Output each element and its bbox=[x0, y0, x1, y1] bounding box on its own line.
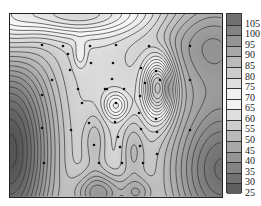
colorbar-tick-label: 75 bbox=[245, 82, 255, 92]
colorbar-cell bbox=[227, 78, 241, 89]
colorbar-cell bbox=[227, 88, 241, 99]
colorbar-cell bbox=[227, 173, 241, 184]
colorbar-cell bbox=[227, 67, 241, 78]
colorbar-cell bbox=[227, 109, 241, 120]
contour-canvas bbox=[10, 14, 222, 197]
colorbar-tick-label: 90 bbox=[245, 50, 255, 60]
colorbar-cell bbox=[227, 56, 241, 67]
colorbar-cell bbox=[227, 46, 241, 57]
colorbar-tick-label: 65 bbox=[245, 103, 255, 113]
colorbar-tick-label: 35 bbox=[245, 167, 255, 177]
colorbar-cell bbox=[227, 130, 241, 141]
colorbar-cell bbox=[227, 162, 241, 173]
colorbar-tick-label: 40 bbox=[245, 156, 255, 166]
colorbar-tick-label: 105 bbox=[245, 19, 260, 29]
colorbar-cell bbox=[227, 35, 241, 46]
colorbar-tick-label: 55 bbox=[245, 124, 255, 134]
colorbar-cell bbox=[227, 141, 241, 152]
colorbar-cell bbox=[227, 152, 241, 163]
colorbar bbox=[226, 13, 242, 193]
colorbar-tick-label: 80 bbox=[245, 72, 255, 82]
colorbar-tick-label: 100 bbox=[245, 29, 260, 39]
colorbar-tick-label: 85 bbox=[245, 61, 255, 71]
colorbar-tick-label: 70 bbox=[245, 93, 255, 103]
colorbar-tick-label: 25 bbox=[245, 188, 255, 198]
colorbar-tick-label: 30 bbox=[245, 177, 255, 187]
colorbar-tick-label: 95 bbox=[245, 40, 255, 50]
colorbar-tick-label: 45 bbox=[245, 146, 255, 156]
colorbar-cell bbox=[227, 183, 241, 194]
colorbar-tick-label: 60 bbox=[245, 114, 255, 124]
colorbar-cell bbox=[227, 25, 241, 36]
colorbar-cell bbox=[227, 99, 241, 110]
contour-plot-area bbox=[9, 13, 223, 198]
colorbar-cell bbox=[227, 120, 241, 131]
colorbar-tick-label: 50 bbox=[245, 135, 255, 145]
colorbar-cell bbox=[227, 14, 241, 25]
